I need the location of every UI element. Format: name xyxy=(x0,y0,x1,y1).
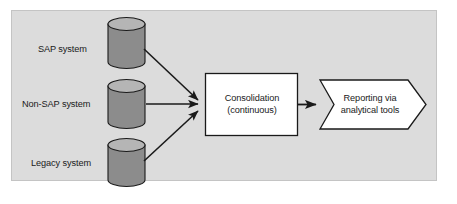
cylinder-non-sap-system xyxy=(108,80,145,129)
label-non-sap-system: Non-SAP system xyxy=(22,99,90,110)
cylinder-sap-system xyxy=(108,18,145,69)
label-sap-system: SAP system xyxy=(38,44,87,55)
cylinder-legacy-system xyxy=(108,139,145,187)
reporting-line-1: Reporting via xyxy=(318,92,422,104)
label-legacy-system: Legacy system xyxy=(31,158,91,169)
reporting-arrow-text: Reporting via analytical tools xyxy=(318,92,422,116)
consolidation-box-text: Consolidation (continuous) xyxy=(206,92,298,116)
connector-legacy-to-consolidation xyxy=(144,111,198,161)
consolidation-line-1: Consolidation xyxy=(206,92,298,104)
reporting-line-2: analytical tools xyxy=(318,104,422,116)
consolidation-line-2: (continuous) xyxy=(206,104,298,116)
diagram-canvas: SAP system Non-SAP system Legacy system … xyxy=(0,0,457,204)
connector-sap-to-consolidation xyxy=(144,49,198,100)
